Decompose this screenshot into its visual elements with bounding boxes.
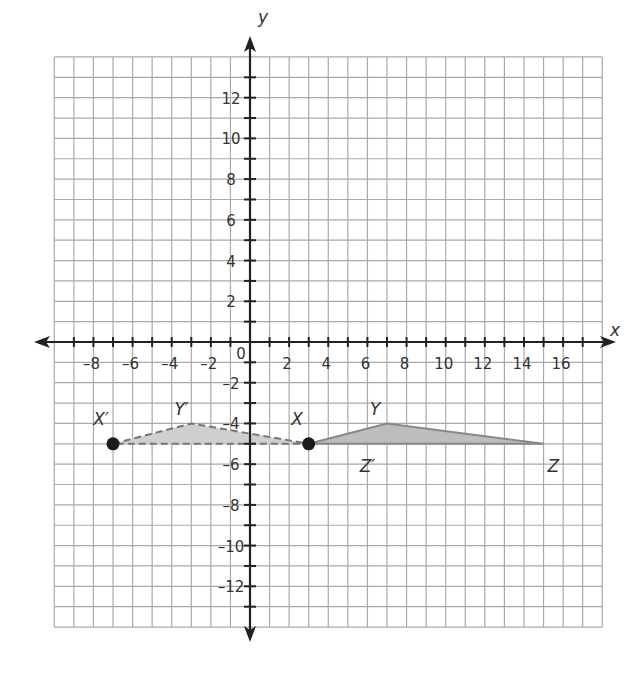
origin-label: 0 (236, 347, 246, 362)
point-x (302, 437, 315, 450)
x-tick-label: 16 (552, 357, 571, 372)
x-tick-label: 6 (361, 357, 371, 372)
vertex-label-x-prime: X′ (93, 411, 109, 428)
vertex-label-z: Z (548, 458, 560, 475)
y-tick-label: –10 (218, 539, 245, 554)
vertex-label-x: X (291, 411, 303, 428)
y-axis-label: y (258, 9, 268, 26)
y-tick-label: 10 (221, 132, 240, 147)
x-tick-label: 14 (512, 357, 531, 372)
vertex-label-y: Y (370, 401, 380, 418)
x-tick-label: 4 (321, 357, 331, 372)
x-tick-label: 10 (434, 357, 453, 372)
y-tick-label: –2 (222, 376, 239, 391)
x-tick-label: –2 (200, 357, 217, 372)
x-axis-label: x (610, 322, 620, 339)
y-tick-label: 2 (226, 295, 236, 310)
y-tick-label: 8 (226, 173, 236, 188)
y-tick-label: 4 (226, 254, 236, 269)
vertex-label-y-prime: Y′ (174, 401, 188, 418)
x-tick-label: 8 (400, 357, 410, 372)
y-tick-label: –4 (222, 417, 239, 432)
x-tick-label: –6 (122, 357, 139, 372)
y-tick-label: –12 (218, 580, 245, 595)
y-tick-label: 12 (221, 91, 240, 106)
vertex-label-z-prime: Z′ (360, 458, 376, 475)
y-tick-label: –6 (222, 458, 239, 473)
x-tick-label: 12 (473, 357, 492, 372)
x-tick-label: 2 (282, 357, 292, 372)
coordinate-plane (0, 0, 641, 674)
triangle-image (113, 423, 309, 443)
x-tick-label: –8 (83, 357, 100, 372)
y-tick-label: –8 (222, 498, 239, 513)
point-x-prime (107, 437, 120, 450)
y-tick-label: 6 (226, 213, 236, 228)
x-tick-label: –4 (161, 357, 178, 372)
